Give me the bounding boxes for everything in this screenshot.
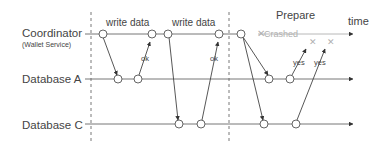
message-prepare-to-a: [243, 37, 268, 75]
phase-label-write-2: write data: [171, 17, 216, 28]
event-coordinator-3: [164, 30, 172, 38]
event-c-1: [175, 120, 183, 128]
label-yes-c: yes: [314, 58, 326, 67]
lane-label-database-c: Database C: [22, 119, 83, 131]
lane-label-database-a: Database A: [22, 73, 82, 85]
event-coordinator-2: [148, 30, 156, 38]
event-c-2: [197, 120, 205, 128]
event-a-3: [265, 75, 273, 83]
label-yes-a: yes: [293, 58, 305, 67]
phase-label-write-1: write data: [105, 17, 150, 28]
event-coordinator-4: [215, 30, 223, 38]
event-c-4: [292, 120, 300, 128]
lane-sublabel-coordinator: (Wallet Service): [22, 41, 71, 49]
message-write-to-a: [103, 37, 117, 75]
event-a-2: [134, 75, 142, 83]
event-coordinator-1: [99, 30, 107, 38]
event-coordinator-5: [237, 30, 245, 38]
label-ok-a: ok: [141, 54, 149, 63]
event-a-4: [286, 75, 294, 83]
phase-label-prepare: Prepare: [276, 9, 315, 21]
event-a-1: [114, 75, 122, 83]
lost-x-icon-c: ✕: [327, 37, 335, 47]
two-phase-commit-diagram: Coordinator (Wallet Service) Database A …: [0, 0, 386, 147]
label-ok-c: ok: [210, 54, 218, 63]
lost-x-icon-a: ✕: [309, 37, 317, 47]
event-c-3: [260, 120, 268, 128]
axis-label-time: time: [348, 15, 369, 27]
lane-label-coordinator: Coordinator: [22, 27, 82, 39]
crashed-label: Crashed: [264, 29, 298, 39]
message-write-to-c: [169, 37, 178, 120]
message-prepare-to-c: [243, 37, 263, 120]
